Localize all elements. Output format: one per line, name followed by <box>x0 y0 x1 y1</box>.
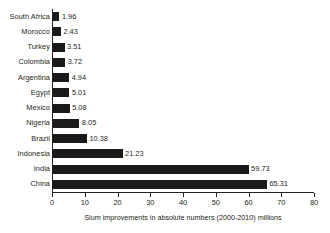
bar-row: China65.31 <box>0 177 330 192</box>
x-axis-tick-label: 0 <box>50 198 54 207</box>
bar-value-label: 2.43 <box>63 28 77 36</box>
x-axis-tick-label: 30 <box>146 198 154 207</box>
bar-row: Morocco2.43 <box>0 24 330 39</box>
bar[interactable] <box>53 58 65 67</box>
x-axis-tick-labels: 01020304050607080 <box>52 198 314 208</box>
bar[interactable] <box>53 104 70 113</box>
x-axis-title: Slum improvements in absolute numbers (2… <box>52 213 314 222</box>
x-axis-tick <box>314 193 315 197</box>
bar[interactable] <box>53 149 123 158</box>
bar[interactable] <box>53 88 69 97</box>
x-axis-tick <box>249 193 250 197</box>
bar-container: 1.96 <box>53 9 330 24</box>
bar-category-label: Morocco <box>0 28 50 36</box>
bar-rows: South Africa1.96Morocco2.43Turkey3.51Col… <box>0 9 330 192</box>
bar[interactable] <box>53 12 59 21</box>
x-axis-tick-label: 80 <box>310 198 318 207</box>
bar-category-label: Mexico <box>0 104 50 112</box>
bar-category-label: Brazil <box>0 135 50 143</box>
x-axis-tick <box>150 193 151 197</box>
bar-category-label: India <box>0 165 50 173</box>
bar-category-label: Colombia <box>0 58 50 66</box>
x-axis-tick-label: 40 <box>179 198 187 207</box>
x-axis-tick <box>216 193 217 197</box>
bar-value-label: 59.73 <box>251 165 270 173</box>
bar[interactable] <box>53 119 79 128</box>
bar-value-label: 65.31 <box>269 180 288 188</box>
bar-container: 59.73 <box>53 162 330 177</box>
bar-category-label: Indonesia <box>0 150 50 158</box>
bar-row: Mexico5.08 <box>0 101 330 116</box>
bar-container: 21.23 <box>53 146 330 161</box>
bar-category-label: Nigeria <box>0 119 50 127</box>
bar-value-label: 4.94 <box>72 74 86 82</box>
x-axis-tick-label: 10 <box>81 198 89 207</box>
bar-value-label: 3.51 <box>67 43 81 51</box>
bar[interactable] <box>53 134 87 143</box>
bar-container: 10.38 <box>53 131 330 146</box>
y-axis-line <box>52 9 53 193</box>
bar[interactable] <box>53 180 267 189</box>
bar-row: India59.73 <box>0 162 330 177</box>
bar-container: 5.08 <box>53 101 330 116</box>
bar-container: 65.31 <box>53 177 330 192</box>
x-axis-tick-label: 20 <box>113 198 121 207</box>
bar-row: Colombia3.72 <box>0 55 330 70</box>
bar-category-label: Turkey <box>0 43 50 51</box>
x-axis-tick <box>281 193 282 197</box>
bar-value-label: 21.23 <box>125 150 144 158</box>
x-axis-tick <box>118 193 119 197</box>
bar-container: 4.94 <box>53 70 330 85</box>
plot-area: South Africa1.96Morocco2.43Turkey3.51Col… <box>0 0 330 233</box>
x-axis-tick <box>52 193 53 197</box>
bar-value-label: 5.01 <box>72 89 86 97</box>
bar-row: Egypt5.01 <box>0 85 330 100</box>
bar-value-label: 1.96 <box>62 13 76 21</box>
bar-value-label: 10.38 <box>89 135 108 143</box>
bar-container: 3.72 <box>53 55 330 70</box>
bar-value-label: 8.05 <box>82 119 96 127</box>
bar[interactable] <box>53 43 65 52</box>
bar-container: 3.51 <box>53 40 330 55</box>
bar[interactable] <box>53 27 61 36</box>
bar[interactable] <box>53 165 249 174</box>
bar-container: 8.05 <box>53 116 330 131</box>
bar-row: Indonesia21.23 <box>0 146 330 161</box>
x-axis-tick <box>183 193 184 197</box>
bar-row: Argentina4.94 <box>0 70 330 85</box>
bar-container: 5.01 <box>53 85 330 100</box>
bar-container: 2.43 <box>53 24 330 39</box>
x-axis-tick-label: 50 <box>212 198 220 207</box>
x-axis-ticks <box>52 193 314 197</box>
x-axis-tick-label: 70 <box>277 198 285 207</box>
x-axis-tick-label: 60 <box>244 198 252 207</box>
bar[interactable] <box>53 73 69 82</box>
x-axis-tick <box>85 193 86 197</box>
bar-value-label: 3.72 <box>68 58 82 66</box>
bar-category-label: China <box>0 180 50 188</box>
bar-row: South Africa1.96 <box>0 9 330 24</box>
bar-row: Brazil10.38 <box>0 131 330 146</box>
bar-row: Nigeria8.05 <box>0 116 330 131</box>
bar-category-label: Argentina <box>0 74 50 82</box>
bar-category-label: Egypt <box>0 89 50 97</box>
bar-row: Turkey3.51 <box>0 40 330 55</box>
bar-chart: South Africa1.96Morocco2.43Turkey3.51Col… <box>0 0 330 233</box>
bar-value-label: 5.08 <box>72 104 86 112</box>
bar-category-label: South Africa <box>0 13 50 21</box>
